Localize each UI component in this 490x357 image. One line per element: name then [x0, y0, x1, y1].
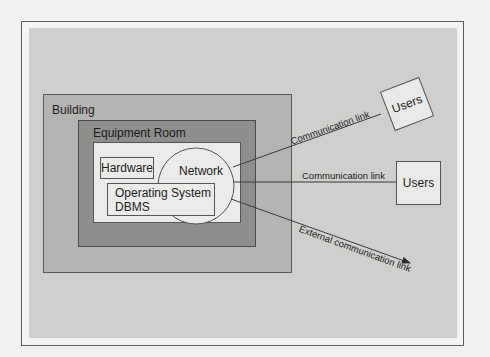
users-box-2: Users: [396, 161, 441, 205]
dbms-label: DBMS: [115, 200, 214, 214]
hardware-label: Hardware: [101, 161, 153, 175]
operating-system-label: Operating System: [115, 186, 214, 200]
users-label-1: Users: [390, 92, 424, 116]
communication-link-label-2: Communication link: [302, 170, 385, 181]
users-label-2: Users: [403, 176, 434, 190]
software-box: Operating System DBMS: [107, 183, 215, 216]
network-label: Network: [179, 165, 223, 177]
hardware-box: Hardware: [100, 157, 154, 179]
